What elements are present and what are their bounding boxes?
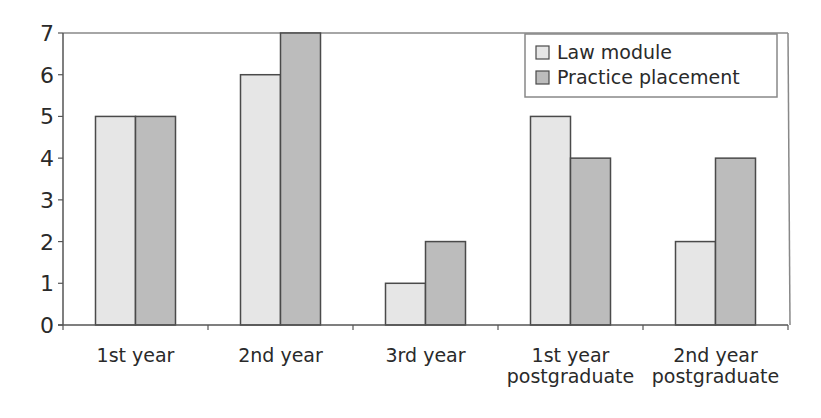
bar-practice-placement [281, 33, 321, 325]
y-tick-label: 4 [40, 146, 54, 171]
bar-chart: 01234567 1st year2nd year3rd year1st yea… [0, 0, 821, 418]
x-category-label: 1st year [97, 344, 175, 366]
bar-law-module [386, 283, 426, 325]
y-tick-label: 7 [40, 21, 54, 46]
x-category-label: postgraduate [507, 365, 634, 387]
legend-label: Law module [557, 41, 672, 63]
x-category-label: postgraduate [652, 365, 779, 387]
x-category-label: 3rd year [385, 344, 465, 366]
y-tick-label: 2 [40, 230, 54, 255]
bar-practice-placement [426, 242, 466, 325]
bar-law-module [241, 75, 281, 325]
x-category-label: 1st year [532, 344, 610, 366]
y-tick-label: 5 [40, 104, 54, 129]
bar-law-module [96, 116, 136, 325]
y-tick-label: 0 [40, 313, 54, 338]
legend: Law modulePractice placement [525, 34, 777, 97]
y-tick-label: 6 [40, 63, 54, 88]
legend-label: Practice placement [557, 66, 740, 88]
x-category-label: 2nd year [673, 344, 758, 366]
bar-practice-placement [136, 116, 176, 325]
x-axis: 1st year2nd year3rd year1st yearpostgrad… [58, 325, 788, 387]
y-tick-label: 3 [40, 188, 54, 213]
y-tick-label: 1 [40, 271, 54, 296]
bar-practice-placement [571, 158, 611, 325]
bar-practice-placement [716, 158, 756, 325]
frame-right [788, 33, 790, 325]
legend-swatch [536, 46, 549, 59]
y-axis: 01234567 [40, 21, 63, 338]
bar-law-module [531, 116, 571, 325]
x-category-label: 2nd year [238, 344, 323, 366]
bar-law-module [676, 242, 716, 325]
legend-swatch [536, 71, 549, 84]
